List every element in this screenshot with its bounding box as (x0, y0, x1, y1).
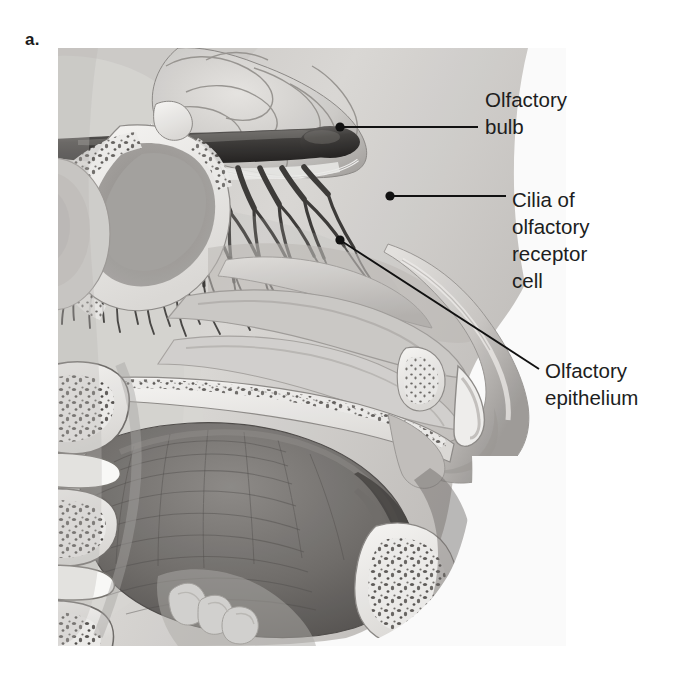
panel-letter: a. (25, 31, 40, 48)
label-olfactory-epithelium: Olfactory epithelium (545, 357, 638, 411)
figure-root: a. (0, 0, 687, 684)
label-cilia-of-olfactory-receptor-cell: Cilia of olfactory receptor cell (512, 186, 589, 294)
label-olfactory-bulb: Olfactory bulb (485, 86, 567, 140)
